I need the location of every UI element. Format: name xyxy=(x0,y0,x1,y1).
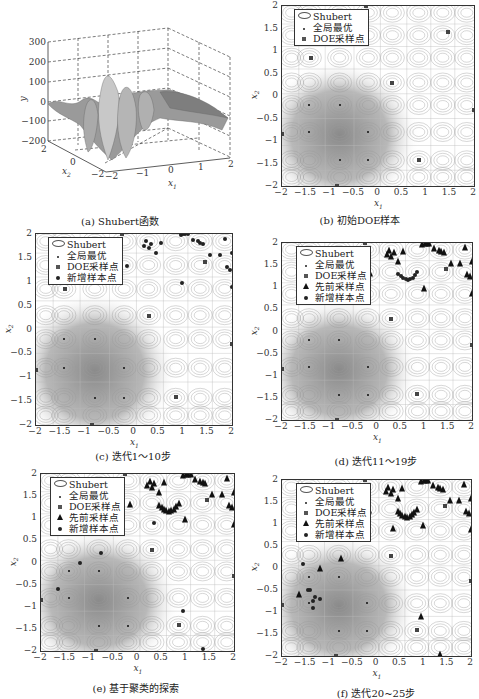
x2-tick: −1.5 xyxy=(256,158,278,167)
previous-sample-marker xyxy=(456,496,462,503)
legend-item-doe-samples: DOE采样点 xyxy=(51,261,119,272)
z-tick: 200 xyxy=(29,58,46,67)
legend-item-doe-samples: DOE采样点 xyxy=(53,501,121,512)
x1-tick: 1.5 xyxy=(442,188,456,197)
new-sample-marker xyxy=(230,285,233,289)
new-sample-marker xyxy=(147,246,151,250)
previous-sample-marker xyxy=(447,496,453,503)
doe-sample-marker xyxy=(147,314,151,318)
x2-tick: −1 xyxy=(19,372,32,381)
doe-sample-marker xyxy=(123,473,127,476)
x1-tick: 1.5 xyxy=(202,653,216,662)
previous-sample-marker xyxy=(176,499,182,506)
global-optimum-marker xyxy=(98,570,100,572)
global-optimum-symbol-icon xyxy=(299,496,313,507)
doe-sample-marker xyxy=(120,233,124,236)
x1-tick: −1 xyxy=(322,658,335,667)
x2-tick: 0.5 xyxy=(264,68,278,77)
legend-label: Shubert xyxy=(315,485,354,496)
global-optimum-symbol-icon xyxy=(297,22,311,33)
global-optimum-marker xyxy=(367,366,369,368)
doe-sample-marker xyxy=(389,554,393,558)
legend-item-doe-samples: DOE采样点 xyxy=(297,33,365,44)
global-optimum-marker xyxy=(367,394,369,396)
new-sample-marker xyxy=(311,606,315,610)
doe-sample-marker xyxy=(174,395,178,399)
new-samples-symbol-icon xyxy=(53,523,67,534)
new-sample-marker xyxy=(318,597,322,601)
x2-tick: 0.5 xyxy=(18,300,32,309)
global-optimum-marker xyxy=(63,367,65,369)
x2-tick: 1.5 xyxy=(264,23,278,32)
shubert-symbol-icon xyxy=(299,485,313,496)
global-optimum-marker xyxy=(98,625,100,627)
global-optimum-marker xyxy=(123,397,125,399)
doe-sample-marker xyxy=(444,267,448,271)
legend-item-new-samples: 新增样本点 xyxy=(299,529,367,540)
new-sample-marker xyxy=(230,251,233,255)
global-optimum-marker xyxy=(338,394,340,396)
doe-sample-marker xyxy=(230,342,233,346)
previous-samples-symbol-icon xyxy=(299,281,313,292)
global-optimum-symbol-icon xyxy=(53,490,67,501)
previous-samples-symbol-icon xyxy=(53,512,67,523)
previous-sample-marker xyxy=(395,257,401,264)
x2-tick: 2 xyxy=(272,1,278,10)
x2-tick: 2 xyxy=(272,238,278,247)
doe-sample-marker xyxy=(472,108,475,112)
z-tick: 0 xyxy=(40,98,46,107)
legend-label: DOE采样点 xyxy=(69,501,121,512)
x2-tick: −1.5 xyxy=(10,396,32,405)
x1-tick: 0.5 xyxy=(153,653,167,662)
x1-tick: −1 xyxy=(82,653,95,662)
x2-tick: 1 xyxy=(31,513,37,522)
x2-tick: 1.5 xyxy=(264,260,278,269)
x2-axis-label: x2 xyxy=(249,326,261,335)
x1-tick: −1 xyxy=(322,422,335,431)
new-sample-marker xyxy=(159,241,163,245)
previous-sample-marker xyxy=(209,490,215,497)
legend-item-doe-samples: DOE采样点 xyxy=(299,507,367,518)
previous-samples-symbol-icon xyxy=(299,518,313,529)
x2-tick: −0.5 xyxy=(256,348,278,357)
x1-axis-label: x1 xyxy=(374,198,383,210)
shubert-symbol-icon xyxy=(53,479,67,490)
x1-tick: −1 xyxy=(136,169,149,178)
previous-sample-marker xyxy=(151,479,157,486)
x1-tick: 1 xyxy=(198,163,204,172)
previous-sample-marker xyxy=(469,289,473,296)
previous-sample-marker xyxy=(466,510,472,517)
x2-tick: 0.5 xyxy=(264,541,278,550)
doe-sample-marker xyxy=(203,260,207,264)
new-sample-marker xyxy=(218,253,222,257)
previous-sample-marker xyxy=(421,285,427,292)
x1-axis-label: x1 xyxy=(373,668,382,680)
previous-sample-marker xyxy=(229,504,235,511)
x2-tick: 1.5 xyxy=(264,497,278,506)
caption-d: (d) 迭代11～19步 xyxy=(335,453,418,468)
previous-sample-marker xyxy=(469,257,473,264)
new-sample-marker xyxy=(208,253,212,257)
previous-sample-marker xyxy=(467,273,473,280)
global-optimum-marker xyxy=(367,131,369,133)
x1-tick: 1 xyxy=(420,658,426,667)
previous-sample-marker xyxy=(462,244,468,251)
x1-tick: 2 xyxy=(228,160,234,169)
new-sample-marker xyxy=(180,281,184,285)
x1-tick: −1.5 xyxy=(294,658,316,667)
legend-item-new-samples: 新增样本点 xyxy=(299,292,367,303)
legend-item-previous-samples: 先前采样点 xyxy=(299,281,367,292)
x1-tick: 0.5 xyxy=(393,422,407,431)
x1-tick: −1.5 xyxy=(53,653,75,662)
x2-axis-label: x2 xyxy=(8,557,20,566)
previous-sample-marker xyxy=(440,485,446,492)
x1-tick: 1 xyxy=(421,422,427,431)
x2-tick: −0.5 xyxy=(15,579,37,588)
legend-label: 新增样本点 xyxy=(315,292,365,303)
new-sample-marker xyxy=(191,238,195,242)
x2-tick: 2 xyxy=(272,475,278,484)
z-tick: 100 xyxy=(29,78,46,87)
x2-tick: 2 xyxy=(26,229,32,238)
shubert-symbol-icon xyxy=(299,248,313,259)
previous-sample-marker xyxy=(390,525,396,532)
